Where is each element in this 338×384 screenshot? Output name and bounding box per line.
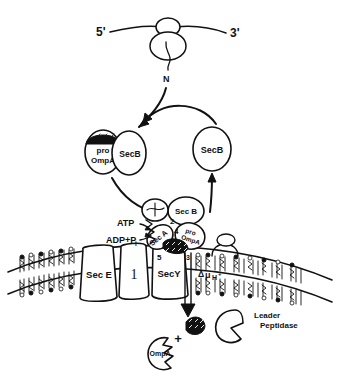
step-number-3: 3: [186, 254, 190, 261]
free-secb-label: SecB: [201, 145, 224, 155]
leader-peptidase-line2: Peptidase: [260, 321, 298, 330]
lipid-tails-left: [20, 249, 74, 294]
step-number-2: 2: [170, 217, 175, 226]
band-one-label: 1: [131, 267, 138, 282]
proton-motive-force-label: Δ μ H +: [198, 269, 222, 281]
arrow-secb-recycle-arc: [143, 106, 216, 124]
atp-label: ATP: [117, 218, 134, 228]
diagram-canvas: Sec E 1 SecY Δ μ H + 5' 3' N: [0, 0, 338, 384]
sec-y-label: SecY: [157, 268, 181, 279]
mrna-right-strand: [176, 26, 226, 33]
leader-peptidase-line1: Leader: [254, 311, 280, 320]
pro-ompa-secb-complex: pro OmpA SecB: [85, 130, 146, 175]
pmf-h: H: [212, 274, 217, 281]
nascent-chain-n-label: N: [163, 74, 170, 84]
mrna-three-prime-label: 3': [230, 26, 240, 40]
arrow-secb-release-up-head: [208, 173, 216, 182]
plus-sign: +: [174, 331, 182, 346]
periplasm-products: Leader Peptidase + OmpA: [148, 310, 298, 370]
step-number-4: 4: [174, 227, 179, 236]
leader-peptidase-body: [216, 310, 243, 342]
cleaved-leader-peptide: [186, 317, 205, 334]
pro-ompa-label-line1: pro: [97, 146, 110, 155]
ribosome-large-subunit: [150, 32, 186, 60]
lipid-heads-right: [196, 253, 294, 305]
adp-label: ADP+P: [106, 235, 136, 245]
step-number-5: 5: [157, 253, 162, 262]
ribosome-group: 5' 3' N: [96, 18, 240, 84]
mrna-five-prime-label: 5': [96, 25, 106, 39]
adp-subscript: i: [135, 240, 137, 247]
mature-ompa-label: OmpA: [150, 350, 171, 358]
complex-secb-label: SecB: [119, 149, 140, 159]
pmf-plus: +: [218, 271, 222, 277]
free-secb-group: SecB: [193, 127, 231, 171]
sec-e-label: Sec E: [86, 269, 112, 280]
mrna-left-strand: [110, 26, 162, 32]
bound-secb-label: Sec B: [175, 207, 197, 216]
pmf-delta: Δ: [198, 269, 204, 279]
channel-arrow-head: [181, 304, 195, 317]
pmf-mu: μ: [205, 270, 211, 280]
hairpin-loop-globule: [217, 234, 235, 246]
diagram-svg: Sec E 1 SecY Δ μ H + 5' 3' N: [0, 0, 338, 384]
